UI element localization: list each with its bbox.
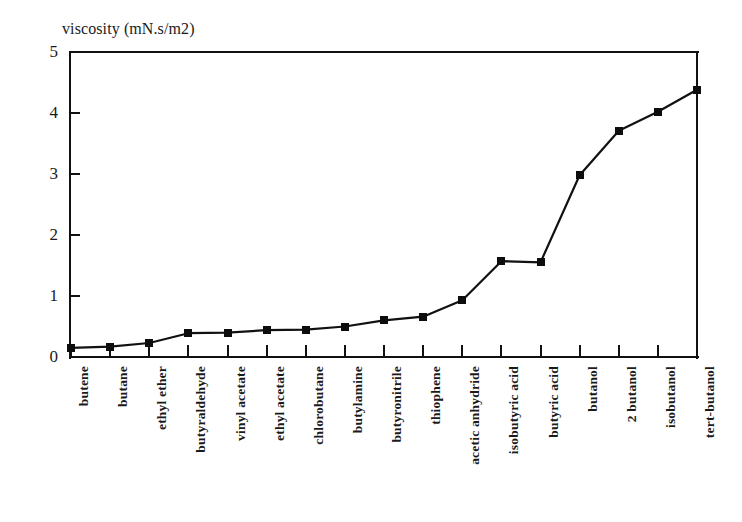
x-axis-tick <box>305 345 307 357</box>
data-point <box>184 329 192 337</box>
y-axis-tick <box>71 112 80 114</box>
data-point <box>302 326 310 334</box>
data-point <box>576 171 584 179</box>
chart-title: viscosity (mN.s/m2) <box>62 20 195 38</box>
x-axis-tick-label: butanol <box>585 366 601 412</box>
x-axis-tick-label: butyric acid <box>546 366 562 438</box>
x-axis-tick <box>500 345 502 357</box>
data-point <box>145 339 153 347</box>
y-axis-tick <box>71 173 80 175</box>
x-axis-tick-label: isobutyric acid <box>506 366 522 454</box>
x-axis-tick-label: vinyl acetate <box>233 366 249 441</box>
x-axis-tick <box>383 345 385 357</box>
x-axis-tick-label: isobutanol <box>663 366 679 428</box>
x-axis-tick-label: 2 butanol <box>624 366 640 422</box>
y-axis-tick-label: 0 <box>36 348 58 365</box>
y-axis-tick-label: 1 <box>36 287 58 304</box>
x-axis-tick-label: ethyl acetate <box>272 366 288 441</box>
x-axis-tick <box>461 345 463 357</box>
x-axis-tick-label: thiophene <box>428 366 444 425</box>
y-axis-tick-label: 5 <box>36 43 58 60</box>
x-axis-tick <box>187 345 189 357</box>
x-axis-tick-label: butane <box>115 366 131 407</box>
data-point <box>67 344 75 352</box>
x-axis-tick-label: butylamine <box>350 366 366 433</box>
axis-top-spine <box>69 51 699 53</box>
data-point <box>263 326 271 334</box>
x-axis-tick <box>344 345 346 357</box>
data-point <box>380 316 388 324</box>
x-axis-tick-label: butyronitrile <box>389 366 405 443</box>
series-line <box>0 0 742 522</box>
x-axis-tick-label: tert-butanol <box>702 366 718 438</box>
viscosity-line-chart: viscosity (mN.s/m2) 012345 butenebutanee… <box>0 0 742 522</box>
x-axis-tick <box>227 345 229 357</box>
x-axis-tick-label: butyraldehyde <box>193 366 209 453</box>
x-axis-tick-label: ethyl ether <box>154 366 170 430</box>
y-axis-tick <box>71 295 80 297</box>
x-axis-tick <box>696 345 698 357</box>
data-point <box>458 296 466 304</box>
x-axis-tick <box>579 345 581 357</box>
data-point <box>106 343 114 351</box>
data-point <box>615 127 623 135</box>
y-axis-tick-label: 2 <box>36 226 58 243</box>
y-axis-tick-label: 4 <box>36 104 58 121</box>
axis-left-spine <box>69 51 71 359</box>
data-point <box>497 257 505 265</box>
data-point <box>224 329 232 337</box>
x-axis-tick <box>540 345 542 357</box>
x-axis-tick-label: butene <box>76 366 92 406</box>
y-axis-tick-label: 3 <box>36 165 58 182</box>
x-axis-tick-label: acetic anhydride <box>467 366 483 465</box>
x-axis-tick <box>266 345 268 357</box>
axis-right-spine <box>696 51 698 359</box>
x-axis-tick <box>618 345 620 357</box>
data-point <box>537 258 545 266</box>
data-point <box>341 323 349 331</box>
x-axis-tick-label: chlorobutane <box>311 366 327 445</box>
data-point <box>419 313 427 321</box>
y-axis-tick <box>71 234 80 236</box>
data-point <box>693 86 701 94</box>
y-axis-tick <box>71 356 80 358</box>
x-axis-tick <box>422 345 424 357</box>
x-axis-tick <box>657 345 659 357</box>
data-point <box>654 108 662 116</box>
